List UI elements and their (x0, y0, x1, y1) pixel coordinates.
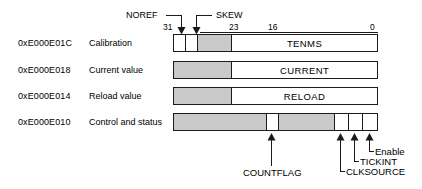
register-name-current-value: Current value (89, 66, 143, 75)
calibration-bit-skew (186, 35, 197, 51)
register-bar-reload-value: RELOAD (173, 87, 378, 105)
countflag-leader-vertical (271, 140, 272, 166)
register-address-reload-value: 0xE000E014 (18, 92, 71, 101)
reload-value-reserved (174, 88, 231, 104)
register-name-control-and-status: Control and status (89, 118, 162, 127)
control-status-reserved-low (279, 114, 334, 130)
callout-label-countflag: COUNTFLAG (243, 168, 302, 178)
register-address-calibration: 0xE000E01C (18, 39, 72, 48)
noref-leader-horizontal (166, 15, 182, 16)
calibration-bit-noref (174, 35, 185, 51)
enable-leader-vertical (369, 140, 370, 151)
tickint-leader-vertical (354, 140, 355, 161)
calibration-field-tenms-label: TENMS (287, 38, 322, 49)
callout-label-enable: Enable (375, 147, 405, 157)
callout-label-tickint: TICKINT (360, 157, 397, 167)
bit-tick-16: 16 (268, 23, 277, 32)
control-status-bit-clksource (335, 114, 348, 130)
reload-value-field-reload: RELOAD (232, 88, 377, 104)
current-value-reserved (174, 62, 231, 78)
control-status-bit-enable (363, 114, 377, 130)
current-value-field-current: CURRENT (232, 62, 377, 78)
skew-leader-horizontal (196, 15, 212, 16)
register-address-control-and-status: 0xE000E010 (18, 118, 71, 127)
callout-label-noref: NOREF (126, 11, 158, 20)
clksource-leader-vertical (340, 140, 341, 171)
callout-label-clksource: CLKSOURCE (346, 167, 405, 177)
register-name-reload-value: Reload value (89, 92, 142, 101)
control-status-bit-countflag (267, 114, 278, 130)
bit-tick-31: 31 (163, 23, 172, 32)
control-status-bit-tickint (349, 114, 362, 130)
clksource-leader-horizontal (340, 171, 345, 172)
bit-tick-23: 23 (229, 23, 238, 32)
tickint-leader-horizontal (354, 161, 359, 162)
callout-label-skew: SKEW (216, 11, 243, 20)
bit-axis-baseline (200, 32, 378, 33)
enable-leader-horizontal (369, 151, 374, 152)
register-bar-current-value: CURRENT (173, 61, 378, 79)
reload-value-field-reload-label: RELOAD (284, 91, 325, 102)
register-bar-control-and-status (173, 113, 378, 131)
calibration-field-tenms: TENMS (232, 35, 377, 51)
control-status-reserved-high (174, 114, 266, 130)
register-bar-calibration: TENMS (173, 34, 378, 52)
systick-register-map: NOREF SKEW 31 23 16 0 0xE000E01C Calibra… (0, 0, 422, 189)
bit-tick-0: 0 (370, 23, 375, 32)
register-address-current-value: 0xE000E018 (18, 66, 71, 75)
calibration-reserved (198, 35, 231, 51)
register-name-calibration: Calibration (89, 39, 132, 48)
current-value-field-current-label: CURRENT (280, 65, 329, 76)
